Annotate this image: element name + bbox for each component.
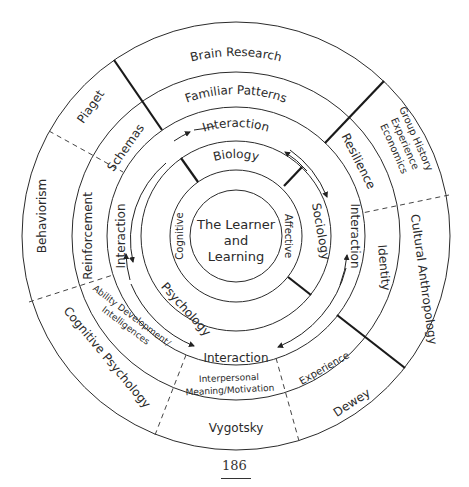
center-title-line3: Learning xyxy=(208,249,264,264)
label-cognitive: Cognitive xyxy=(174,212,185,259)
page-number-rule xyxy=(221,478,251,479)
label-biology: Biology xyxy=(212,147,261,164)
label-ability-development: Ability Development/ xyxy=(91,283,173,349)
label-cultural-anthropology: Cultural Anthropology xyxy=(408,213,440,345)
label-familiar-patterns: Familiar Patterns xyxy=(183,83,289,106)
label-behaviorism: Behaviorism xyxy=(35,179,49,254)
label-interaction-left: Interaction xyxy=(114,203,128,268)
page-number: 186 xyxy=(0,458,469,473)
dashed-divider-bottom-left xyxy=(155,355,186,435)
label-brain-research: Brain Research xyxy=(189,45,283,65)
center-title-line2: and xyxy=(224,233,248,248)
label-affective: Affective xyxy=(283,214,294,258)
label-identity: Identity xyxy=(375,244,393,291)
divider-soc-psy xyxy=(288,277,311,295)
label-interaction-bottom: Interaction xyxy=(203,351,268,365)
label-experience: Experience xyxy=(297,349,351,386)
label-dewey: Dewey xyxy=(331,386,373,420)
label-meaning-motivation: Meaning/Motivation xyxy=(185,383,274,398)
divider-bio-left xyxy=(181,158,198,182)
label-sociology: Sociology xyxy=(309,202,333,261)
label-interaction-top: Interaction xyxy=(201,116,271,135)
learner-diagram: The Learner and Learning Cognitive Affec… xyxy=(0,0,469,487)
dashed-divider-bottom-right xyxy=(276,358,299,441)
label-interpersonal: Interpersonal xyxy=(199,372,259,384)
arrow-bottom-right xyxy=(278,268,346,347)
label-schemas: Schemas xyxy=(104,121,147,174)
arrow-top-head xyxy=(174,132,190,141)
label-interaction-right: Interaction xyxy=(348,203,362,268)
divider-upper-right xyxy=(325,81,384,143)
divider-bio-right xyxy=(284,167,302,186)
dashed-divider-right xyxy=(362,195,449,213)
label-reinforcement: Reinforcement xyxy=(81,192,95,280)
label-piaget: Piaget xyxy=(74,87,107,126)
label-vygotsky: Vygotsky xyxy=(209,421,264,435)
concentric-diagram: The Learner and Learning Cognitive Affec… xyxy=(0,0,469,487)
center-title-line1: The Learner xyxy=(196,217,276,232)
label-resilience: Resilience xyxy=(339,131,379,191)
